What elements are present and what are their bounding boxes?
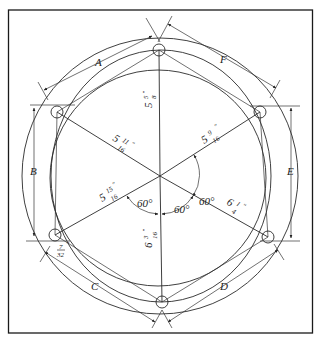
label-chord-e: E	[286, 165, 294, 177]
radius-top: 5 5 8 "	[141, 91, 158, 108]
chord-dimensions	[34, 16, 291, 328]
radius-upper-left: 5 11 16 "	[108, 131, 135, 157]
svg-text:5: 5	[142, 102, 154, 108]
reference-ticks	[26, 105, 300, 241]
radial-lines	[55, 50, 268, 302]
svg-text:": "	[213, 123, 220, 131]
svg-text:": "	[240, 202, 247, 210]
bolt-circle-diagram: A F B E C D 5 5 8 " 5 11 16 " 5 9 16 " 5…	[0, 0, 319, 341]
svg-text:3: 3	[142, 235, 150, 240]
label-chord-c: C	[91, 280, 99, 292]
angle-label-lower-right: 60°	[174, 203, 190, 215]
radius-lower-right: 6 1 4 "	[223, 194, 248, 219]
radius-bottom: 6 3 16 "	[141, 229, 159, 248]
svg-text:": "	[66, 240, 69, 248]
svg-text:16: 16	[151, 232, 159, 240]
svg-text:6: 6	[142, 242, 154, 248]
label-chord-a: A	[94, 56, 102, 68]
label-chord-d: D	[219, 280, 228, 292]
svg-text:5: 5	[142, 95, 150, 99]
svg-text:": "	[129, 140, 136, 148]
label-chord-f: F	[219, 53, 227, 65]
angle-label-lower-left: 60°	[137, 197, 153, 209]
label-chord-b: B	[30, 165, 37, 177]
svg-text:4: 4	[230, 208, 237, 217]
svg-text:": "	[141, 229, 149, 232]
angle-label-right: 60°	[199, 195, 215, 207]
frame-border	[9, 10, 313, 333]
inner-circle	[50, 70, 266, 286]
svg-text:8: 8	[150, 95, 158, 99]
svg-text:32: 32	[56, 251, 65, 259]
svg-text:": "	[141, 91, 149, 94]
offset-dimension: 7 32 "	[56, 240, 69, 259]
